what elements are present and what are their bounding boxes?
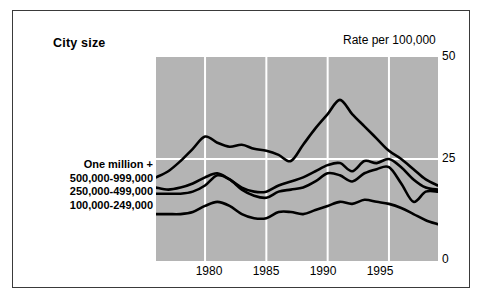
chart-figure: City size Rate per 100,000 One million +…	[12, 10, 470, 288]
chart-plot-area	[156, 57, 438, 261]
x-tick-1990: 1990	[300, 264, 346, 278]
x-tick-1985: 1985	[243, 264, 289, 278]
y-tick-50: 50	[442, 49, 455, 63]
y-tick-25: 25	[442, 151, 455, 165]
chart-svg	[156, 57, 438, 261]
legend-item-one-million: One million +	[43, 158, 153, 172]
chart-y-axis-title: Rate per 100,000	[343, 33, 436, 47]
legend-item-500k-999k: 500,000-999,000	[43, 172, 153, 186]
x-tick-1995: 1995	[357, 264, 403, 278]
y-tick-0: 0	[442, 252, 449, 266]
legend-item-250k-499k: 250,000-499,000	[43, 185, 153, 199]
legend-item-100k-249k: 100,000-249,000	[43, 199, 153, 213]
x-tick-1980: 1980	[186, 264, 232, 278]
chart-legend: One million + 500,000-999,000 250,000-49…	[43, 158, 153, 212]
chart-legend-title: City size	[53, 36, 106, 50]
